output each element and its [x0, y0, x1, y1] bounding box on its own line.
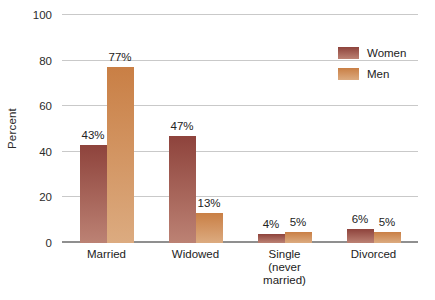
bar-men-divorced: 5% — [374, 232, 401, 243]
value-label: 77% — [108, 51, 131, 63]
bar-group: 4%5% — [240, 15, 329, 243]
value-label: 13% — [197, 197, 220, 209]
legend: Women Men — [338, 47, 406, 89]
men-swatch — [338, 68, 359, 80]
y-tick-label: 20 — [39, 191, 52, 203]
y-tick-label: 60 — [39, 100, 52, 112]
y-tick-labels: 020406080100 — [0, 15, 52, 243]
bar-men-single: 5% — [285, 232, 312, 243]
bar-chart: Percent 020406080100 43%77%47%13%4%5%6%5… — [0, 0, 435, 300]
category-label: Divorced — [329, 248, 418, 287]
legend-label-women: Women — [367, 47, 406, 59]
y-tick-label: 40 — [39, 146, 52, 158]
value-label: 43% — [81, 129, 104, 141]
bar-men-widowed: 13% — [196, 213, 223, 243]
bar-women-married: 43% — [80, 145, 107, 243]
category-label: Married — [62, 248, 151, 287]
legend-label-men: Men — [367, 68, 389, 80]
bar-women-single: 4% — [258, 234, 285, 243]
women-swatch — [338, 47, 359, 59]
value-label: 5% — [379, 216, 396, 228]
legend-item-men: Men — [338, 68, 406, 80]
y-tick-label: 80 — [39, 55, 52, 67]
bar-women-widowed: 47% — [169, 136, 196, 243]
category-label: Single(nevermarried) — [240, 248, 329, 287]
value-label: 6% — [352, 213, 369, 225]
bar-men-married: 77% — [107, 67, 134, 243]
bar-group: 43%77% — [62, 15, 151, 243]
y-tick-label: 0 — [46, 237, 52, 249]
category-label: Widowed — [151, 248, 240, 287]
bar-group: 47%13% — [151, 15, 240, 243]
value-label: 47% — [170, 120, 193, 132]
value-label: 4% — [263, 218, 280, 230]
value-label: 5% — [290, 216, 307, 228]
legend-item-women: Women — [338, 47, 406, 59]
bar-women-divorced: 6% — [347, 229, 374, 243]
category-labels: MarriedWidowedSingle(nevermarried)Divorc… — [62, 248, 418, 287]
y-tick-label: 100 — [33, 9, 52, 21]
